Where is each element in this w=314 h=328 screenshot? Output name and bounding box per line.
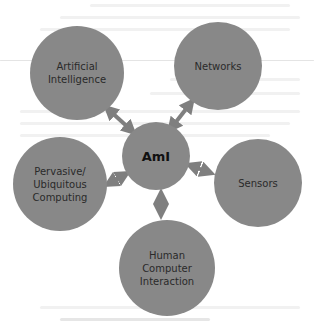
node-human-computer-interaction: Human Computer Interaction [119, 220, 215, 316]
node-label: Human Computer Interaction [140, 249, 194, 288]
node-networks: Networks [174, 22, 262, 110]
node-sensors: Sensors [214, 139, 302, 227]
node-label: Pervasive/ Ubiquitous Computing [33, 165, 88, 204]
node-label: Artificial Intelligence [48, 60, 106, 86]
node-pervasive-ubiquitous-computing: Pervasive/ Ubiquitous Computing [13, 137, 107, 231]
arrow-ami-networks [172, 104, 190, 127]
node-ami-center: AmI [122, 122, 190, 190]
node-label: Networks [195, 60, 242, 73]
arrow-ami-pervasive [110, 175, 124, 183]
node-label: Sensors [238, 177, 278, 190]
node-artificial-intelligence: Artificial Intelligence [30, 26, 124, 120]
node-label: AmI [142, 150, 170, 163]
arrow-ami-sensors [192, 166, 208, 172]
arrow-ami-ai [109, 110, 131, 130]
